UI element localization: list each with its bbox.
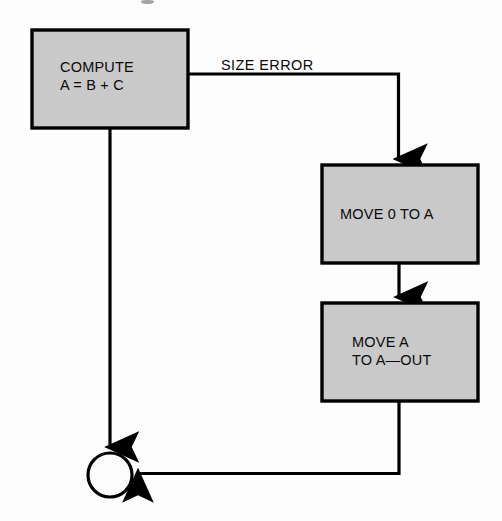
edge-label-size-error: SIZE ERROR <box>221 57 314 74</box>
node-move-zero-to-a[interactable] <box>322 165 478 263</box>
node-compute[interactable] <box>32 30 188 128</box>
edge-compute-to-move-zero <box>188 74 399 159</box>
node-connector-circle[interactable] <box>88 453 132 497</box>
flowchart-canvas: COMPUTEA = B + C MOVE 0 TO A MOVE ATO A—… <box>0 0 502 521</box>
node-move-a-to-a-out[interactable] <box>322 303 478 401</box>
edge-move-a-to-connector <box>138 401 399 474</box>
flowchart-graphics <box>0 0 502 521</box>
